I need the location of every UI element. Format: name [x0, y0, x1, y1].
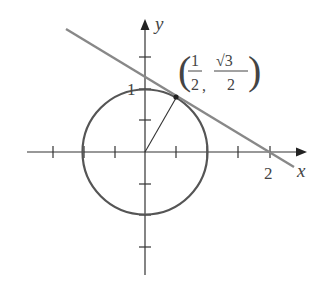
x-axis-label: x [296, 160, 306, 181]
x-axis-arrow-icon [296, 148, 307, 157]
y-coord-numerator: √3 [216, 52, 233, 69]
x-coord-numerator: 1 [191, 52, 199, 69]
x-coord-denominator: 2 [191, 76, 199, 93]
point-label: ( 1 2 , √3 2 ) [178, 48, 261, 94]
tangency-point [173, 94, 178, 99]
right-paren: ) [248, 48, 261, 93]
radius-segment [145, 98, 176, 152]
y-tick-label-1: 1 [127, 80, 136, 99]
coord-separator: , [202, 77, 206, 94]
y-axis [139, 19, 151, 275]
y-axis-arrow-icon [141, 19, 150, 30]
y-coord-denominator: 2 [227, 76, 235, 93]
y-axis-label: y [153, 13, 164, 34]
diagram-canvas: y x 2 1 ( 1 2 , √3 2 ) [0, 0, 325, 295]
x-axis [27, 146, 307, 158]
x-tick-label-2: 2 [264, 164, 273, 183]
